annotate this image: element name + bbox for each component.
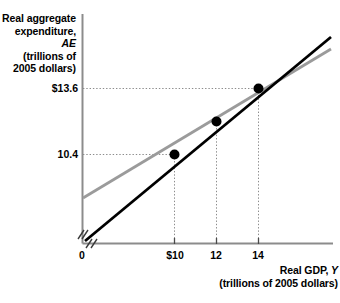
data-point-14-13-6 bbox=[254, 84, 264, 94]
droplines bbox=[83, 89, 259, 243]
aggregate-expenditure-chart: Real aggregate expenditure, AE (trillion… bbox=[0, 0, 340, 303]
series-line-ae bbox=[83, 49, 331, 198]
series-line-45-degree bbox=[85, 37, 331, 241]
data-point-12-12 bbox=[212, 117, 222, 127]
data-point-10-10-4 bbox=[170, 150, 180, 160]
plot-area bbox=[0, 0, 340, 303]
